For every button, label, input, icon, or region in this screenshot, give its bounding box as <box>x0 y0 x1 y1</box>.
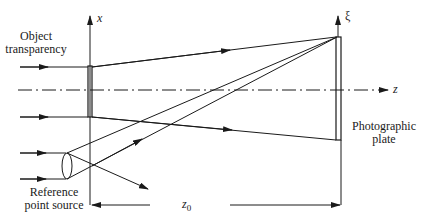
photographic-plate <box>336 37 341 140</box>
photographic-plate-label: Photographic plate <box>344 120 424 146</box>
object-transparency-label: Object transparency <box>0 30 72 56</box>
z-axis-label: z <box>393 83 398 96</box>
distance-label: z0 <box>182 198 191 215</box>
reference-source-label: Reference point source <box>14 186 94 212</box>
xi-axis-label: ξ <box>345 10 350 23</box>
reference-lens <box>62 153 72 179</box>
x-axis-label: x <box>97 12 102 25</box>
